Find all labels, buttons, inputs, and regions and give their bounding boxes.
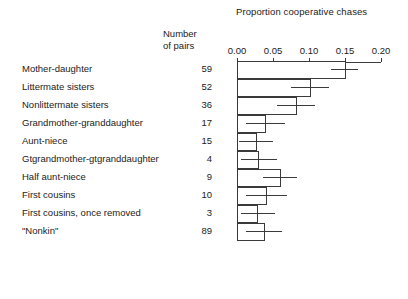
error-bar	[246, 120, 284, 128]
axis-tick-label: 0.20	[372, 45, 391, 56]
error-bars-group	[239, 66, 358, 236]
category-label: Nonlittermate sisters	[22, 96, 109, 114]
table-row: Aunt-niece15	[0, 132, 232, 150]
error-bar	[241, 156, 277, 164]
category-label: Aunt-niece	[22, 132, 67, 150]
error-bar	[239, 138, 273, 146]
axis-tick-label: 0.10	[300, 45, 319, 56]
bars-group	[237, 62, 345, 241]
bar	[237, 134, 256, 151]
table-row: Nonlittermate sisters36	[0, 96, 232, 114]
error-bar	[263, 174, 297, 182]
number-of-pairs-value: 36	[168, 96, 212, 114]
number-of-pairs-value: 17	[168, 114, 212, 132]
error-bar	[331, 66, 358, 74]
category-label: Gtgrandmother-gtgranddaughter	[22, 150, 159, 168]
error-bar	[246, 228, 281, 236]
bar	[237, 188, 267, 205]
category-label: First cousins, once removed	[22, 204, 141, 222]
table-row: Littermate sisters52	[0, 78, 232, 96]
chart-figure: Proportion cooperative chases Number of …	[0, 0, 408, 299]
table-row: Grandmother-granddaughter17	[0, 114, 232, 132]
table-row: Gtgrandmother-gtgranddaughter4	[0, 150, 232, 168]
bar	[237, 170, 280, 187]
bar	[237, 116, 266, 133]
error-bar	[241, 210, 276, 218]
category-label: Littermate sisters	[22, 78, 94, 96]
bar	[237, 206, 258, 223]
axis-tick-label: 0.05	[264, 45, 283, 56]
bar	[237, 152, 259, 169]
number-of-pairs-value: 59	[168, 60, 212, 78]
category-label: "Nonkin"	[22, 222, 58, 240]
number-of-pairs-header: Number of pairs	[163, 28, 221, 52]
number-of-pairs-value: 15	[168, 132, 212, 150]
axis-tick-label: 0.00	[228, 45, 247, 56]
category-label: Grandmother-granddaughter	[22, 114, 143, 132]
number-of-pairs-value: 4	[168, 150, 212, 168]
axis-tick-label: 0.15	[336, 45, 355, 56]
number-of-pairs-value: 52	[168, 78, 212, 96]
bar	[237, 98, 296, 115]
bar	[237, 224, 264, 241]
error-bar	[277, 102, 315, 110]
pairs-header-line-1: Number	[163, 28, 221, 40]
category-label: Mother-daughter	[22, 60, 92, 78]
table-row: First cousins10	[0, 186, 232, 204]
chart-title: Proportion cooperative chases	[236, 6, 367, 17]
number-of-pairs-value: 9	[168, 168, 212, 186]
category-label: Half aunt-niece	[22, 168, 86, 186]
x-axis: 0.000.050.100.150.20	[228, 45, 391, 62]
category-list: Mother-daughter59Littermate sisters52Non…	[0, 60, 232, 240]
number-of-pairs-value: 10	[168, 186, 212, 204]
bar	[237, 80, 310, 97]
pairs-header-line-2: of pairs	[163, 40, 221, 52]
number-of-pairs-value: 3	[168, 204, 212, 222]
table-row: Half aunt-niece9	[0, 168, 232, 186]
table-row: First cousins, once removed3	[0, 204, 232, 222]
bar	[237, 62, 345, 79]
table-row: "Nonkin"89	[0, 222, 232, 240]
error-bar	[246, 192, 287, 200]
number-of-pairs-value: 89	[168, 222, 212, 240]
table-row: Mother-daughter59	[0, 60, 232, 78]
error-bar	[291, 84, 329, 92]
category-label: First cousins	[22, 186, 75, 204]
